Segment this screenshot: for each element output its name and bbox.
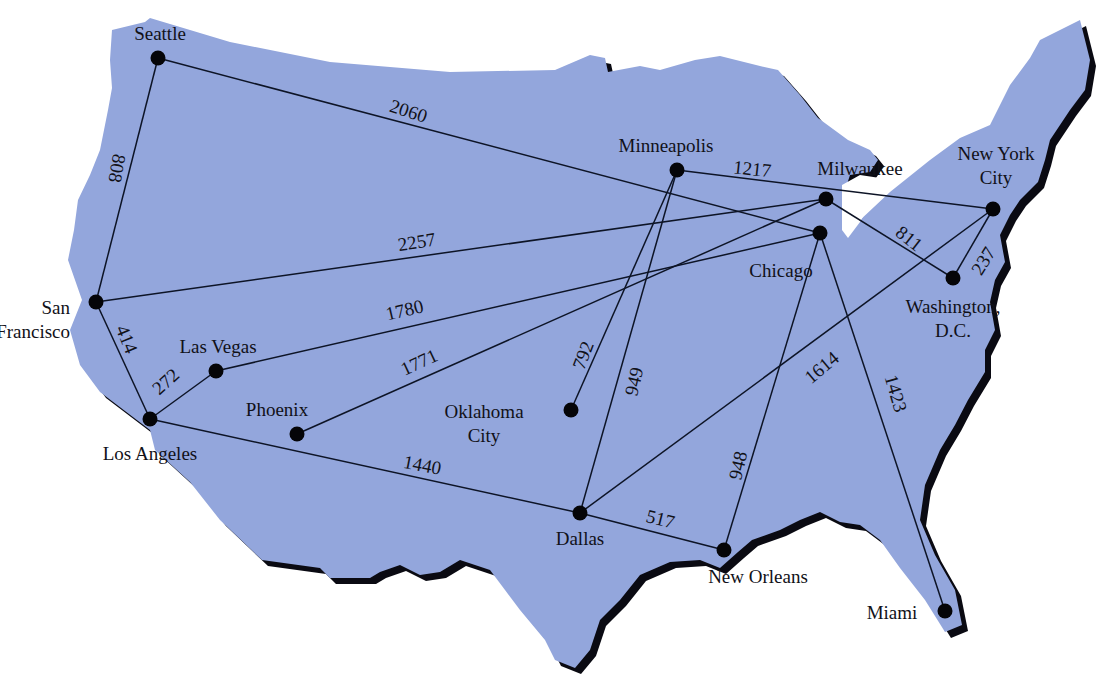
city-label: Seattle — [134, 23, 186, 44]
city-label: Las Vegas — [179, 336, 256, 357]
city-marker-icon[interactable] — [89, 295, 104, 310]
city-label: SanFrancisco — [0, 297, 71, 342]
city-label: Phoenix — [246, 399, 309, 420]
city-label: New Orleans — [708, 566, 808, 587]
city-label: Dallas — [556, 528, 605, 549]
city-label: Miami — [867, 602, 918, 623]
city-marker-icon[interactable] — [946, 271, 961, 286]
city-marker-icon[interactable] — [938, 604, 953, 619]
city-marker-icon[interactable] — [717, 543, 732, 558]
city-marker-icon[interactable] — [670, 163, 685, 178]
city-label: Chicago — [749, 260, 812, 281]
city-marker-icon[interactable] — [986, 202, 1001, 217]
city-marker-icon[interactable] — [573, 506, 588, 521]
city-label: Milwaukee — [817, 158, 902, 179]
city-marker-icon[interactable] — [143, 412, 158, 427]
city-marker-icon[interactable] — [564, 403, 579, 418]
city-marker-icon[interactable] — [209, 364, 224, 379]
city-label: Minneapolis — [619, 135, 714, 156]
us-map: 8082060225741427217801771144012177929498… — [0, 0, 1100, 674]
city-marker-icon[interactable] — [819, 192, 834, 207]
city-marker-icon[interactable] — [813, 226, 828, 241]
city-label: Los Angeles — [103, 443, 197, 464]
city-marker-icon[interactable] — [151, 51, 166, 66]
city-marker-icon[interactable] — [290, 427, 305, 442]
distance-label: 1217 — [732, 156, 772, 181]
